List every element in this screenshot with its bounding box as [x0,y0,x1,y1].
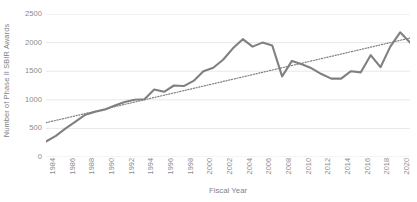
x-axis-tick-labels: 1984198619881990199219941996199820002002… [46,158,410,188]
y-tick-label: 1500 [14,67,42,75]
x-tick-label: 1984 [49,158,56,174]
series-lines [46,32,410,141]
x-tick-label: 2020 [403,158,410,174]
gridlines [46,14,410,157]
y-axis-title-text: Number of Phase II SBIR Awards [3,23,12,137]
x-tick-label: 2016 [364,158,371,174]
line-chart: Number of Phase II SBIR Awards 050010001… [0,0,417,202]
y-tick-label: 2500 [14,10,42,18]
x-tick-label: 2000 [206,158,213,174]
x-tick-label: 1992 [128,158,135,174]
x-tick-label: 1990 [108,158,115,174]
x-tick-label: 2018 [383,158,390,174]
x-tick-label: 2010 [305,158,312,174]
x-tick-label: 2012 [324,158,331,174]
x-tick-label: 1998 [187,158,194,174]
y-tick-label: 1000 [14,96,42,104]
x-tick-label: 2014 [344,158,351,174]
y-tick-label: 2000 [14,39,42,47]
x-tick-label: 1986 [69,158,76,174]
x-tick-label: 2008 [285,158,292,174]
x-tick-label: 2002 [226,158,233,174]
plot-svg [46,14,410,157]
trendline [46,38,410,123]
y-tick-label: 0 [14,153,42,161]
x-tick-label: 2006 [265,158,272,174]
y-tick-label: 500 [14,124,42,132]
x-tick-label: 2004 [246,158,253,174]
x-tick-label: 1988 [88,158,95,174]
x-axis-title: Fiscal Year [46,186,410,195]
y-axis-tick-labels: 05001000150020002500 [12,0,42,202]
plot-area [46,14,410,157]
x-tick-label: 1994 [147,158,154,174]
x-tick-label: 1996 [167,158,174,174]
data-line [46,32,410,141]
